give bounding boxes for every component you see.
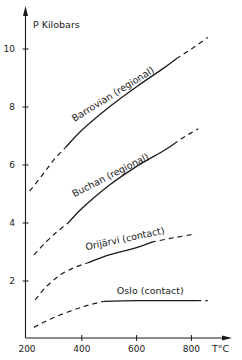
extrapolated-segment — [30, 148, 66, 192]
y-tick-label: 2 — [9, 276, 15, 286]
observed-segment — [104, 301, 199, 302]
x-axis-arrow-icon — [222, 336, 232, 341]
x-tick-label: 400 — [73, 344, 90, 354]
y-tick-label: 10 — [4, 44, 16, 54]
x-axis-title: T°C — [211, 343, 230, 354]
y-tick-label: 8 — [9, 102, 15, 112]
curve-label: Oslo (contact) — [117, 285, 184, 296]
extrapolated-segment — [175, 129, 198, 144]
y-axis: P Kilobars 246810 — [4, 6, 80, 338]
extrapolated-segment — [178, 37, 208, 57]
extrapolated-segment — [34, 301, 104, 327]
extrapolated-segment — [35, 263, 87, 300]
curve-oslo — [34, 301, 208, 328]
curves — [30, 37, 208, 327]
x-tick-label: 200 — [18, 344, 35, 354]
pt-diagram: P Kilobars 246810 T°C 200400600800 Barro… — [0, 0, 242, 360]
curve-label: Orijärvi (contact) — [84, 225, 165, 253]
y-ticks: 246810 — [4, 44, 29, 286]
y-axis-arrow-icon — [23, 6, 28, 16]
curve-label: Barrovian (regional) — [70, 64, 156, 123]
x-tick-label: 800 — [183, 344, 200, 354]
curve-labels: Barrovian (regional)Buchan (regional)Ori… — [70, 64, 184, 296]
x-axis: T°C 200400600800 — [18, 335, 232, 354]
y-tick-label: 6 — [9, 160, 15, 170]
extrapolated-segment — [34, 223, 68, 255]
y-tick-label: 4 — [9, 218, 15, 228]
curve-label: Buchan (regional) — [70, 151, 150, 199]
y-axis-title: P Kilobars — [33, 19, 80, 30]
observed-segment — [65, 58, 177, 148]
x-tick-label: 600 — [128, 344, 145, 354]
